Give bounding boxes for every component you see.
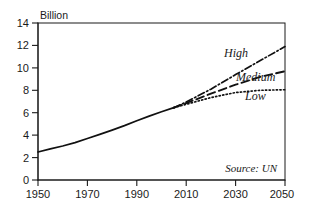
y-tick-label-12: 12 [17, 39, 29, 51]
source-annotation: Source: UN [225, 162, 277, 174]
x-tick-label-2030: 2030 [223, 188, 247, 200]
series-line-historic [38, 108, 174, 152]
series-label-medium: Medium [235, 70, 276, 84]
series-label-low: Low [244, 89, 266, 103]
y-tick-label-2: 2 [23, 152, 29, 164]
y-tick-label-6: 6 [23, 107, 29, 119]
y-tick-label-4: 4 [23, 129, 29, 141]
y-axis-unit-label: Billion [40, 9, 68, 21]
series-label-high: High [223, 46, 248, 60]
x-tick-label-1970: 1970 [75, 188, 99, 200]
series-line-low [174, 90, 285, 108]
y-tick-label-0: 0 [23, 174, 29, 186]
y-tick-label-10: 10 [17, 62, 29, 74]
y-tick-label-14: 14 [17, 17, 29, 29]
chart-canvas: 0 2 4 6 8 10 12 14 1950 1970 1990 2010 2… [0, 0, 309, 213]
x-axis-ticks [38, 180, 285, 186]
x-tick-label-2010: 2010 [174, 188, 198, 200]
x-tick-label-1990: 1990 [125, 188, 149, 200]
x-tick-label-1950: 1950 [26, 188, 50, 200]
y-tick-label-8: 8 [23, 84, 29, 96]
population-projection-chart: 0 2 4 6 8 10 12 14 1950 1970 1990 2010 2… [0, 0, 309, 213]
y-axis-ticks [32, 23, 38, 180]
x-tick-label-2050: 2050 [270, 188, 294, 200]
